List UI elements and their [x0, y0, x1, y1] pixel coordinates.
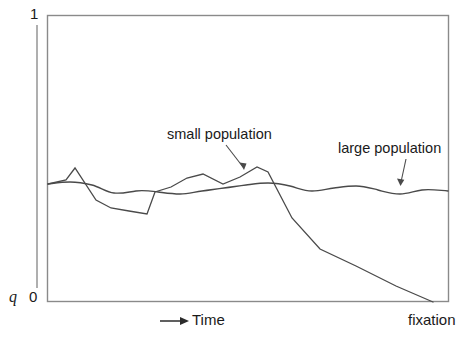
y-axis-top-tick-label: 1	[30, 6, 38, 21]
figure-container: 1 0 q Time fixation small population lar…	[0, 0, 470, 345]
small-population-arrowhead-icon	[240, 163, 247, 171]
plot-frame	[48, 16, 449, 302]
y-axis-bottom-tick-label: 0	[29, 289, 37, 304]
series-small-population	[48, 167, 433, 302]
large-population-arrowhead-icon	[397, 179, 404, 187]
x-axis-end-label-fixation: fixation	[408, 312, 456, 327]
y-axis-title: q	[9, 289, 17, 305]
annotation-large-population: large population	[338, 141, 441, 156]
series-large-population	[48, 182, 448, 194]
chart-canvas	[0, 0, 470, 345]
large-population-leader-line	[401, 159, 406, 182]
time-arrow-icon	[180, 317, 189, 325]
x-axis-title: Time	[192, 312, 225, 327]
annotation-small-population: small population	[167, 127, 272, 142]
